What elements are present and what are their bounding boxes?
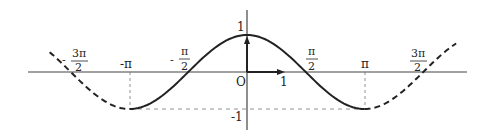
x-unit-label: 1 <box>280 75 288 89</box>
svg-text:2: 2 <box>181 60 188 73</box>
svg-text:-: - <box>170 54 174 67</box>
y-label-top: 1 <box>237 20 245 34</box>
origin-label: O <box>236 75 246 89</box>
y-unit-arrowhead-icon <box>244 36 250 44</box>
svg-text:π: π <box>181 45 188 58</box>
y-label-bottom: -1 <box>231 110 243 124</box>
svg-text:2: 2 <box>308 60 315 73</box>
tick-label-pi-2: π 2 <box>306 45 318 73</box>
svg-text:3π: 3π <box>411 47 425 60</box>
tick-label-neg-pi-2: - π 2 <box>170 45 190 73</box>
svg-text:2: 2 <box>414 61 421 74</box>
svg-text:2: 2 <box>75 61 82 74</box>
tick-label-neg-pi: -π <box>120 57 132 71</box>
svg-text:π: π <box>308 45 315 58</box>
svg-text:-: - <box>62 54 66 67</box>
svg-text:3π: 3π <box>72 47 86 60</box>
cosine-graph: O 1 1 -1 - 3π 2 -π - π 2 π 2 π 3π 2 <box>0 0 486 135</box>
tick-label-pi: π <box>361 57 369 71</box>
tick-label-neg-3pi-2: - 3π 2 <box>62 47 88 74</box>
